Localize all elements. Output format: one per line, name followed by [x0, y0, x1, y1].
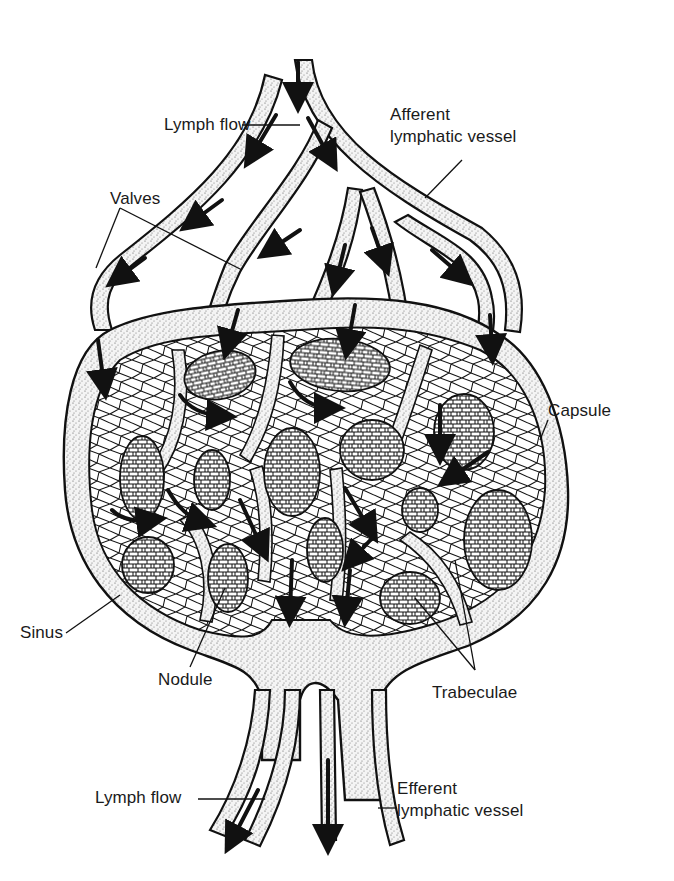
nodule-11	[208, 544, 248, 612]
label-afferent-lymphatic-vessel: Afferent lymphatic vessel	[390, 104, 590, 148]
label-lymph-flow-bottom: Lymph flow	[95, 787, 181, 809]
nodule-10	[122, 537, 174, 593]
nodule-3	[434, 394, 494, 470]
label-sinus: Sinus	[20, 622, 63, 644]
nodule-4	[120, 436, 164, 520]
nodule-12	[307, 518, 343, 582]
label-lymph-flow-top: Lymph flow	[164, 114, 250, 136]
nodule-9	[464, 490, 532, 590]
label-nodule: Nodule	[158, 669, 212, 691]
label-trabeculae: Trabeculae	[432, 682, 517, 704]
label-valves: Valves	[110, 188, 160, 210]
nodule-8	[402, 488, 438, 532]
nodule-5	[194, 450, 230, 510]
label-efferent-lymphatic-vessel: Efferent lymphatic vessel	[397, 778, 597, 822]
label-efferent-line1: Efferent	[397, 778, 597, 800]
nodule-6	[264, 428, 320, 516]
nodule-7	[340, 420, 404, 480]
label-afferent-line1: Afferent	[390, 104, 590, 126]
label-efferent-line2: lymphatic vessel	[397, 800, 597, 822]
label-afferent-line2: lymphatic vessel	[390, 126, 590, 148]
label-capsule: Capsule	[548, 400, 611, 422]
